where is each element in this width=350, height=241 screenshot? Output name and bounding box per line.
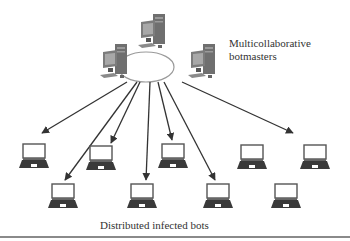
- bot-laptop-8: [203, 184, 233, 208]
- desktop-computer-icon: [188, 44, 215, 78]
- botmasters-label-line2: botmasters: [229, 50, 311, 63]
- laptop-icon: [19, 144, 49, 168]
- arrow-to-bot-5: [182, 82, 293, 133]
- laptop-icon: [237, 145, 267, 169]
- botmaster-desktop-left: [100, 44, 127, 78]
- bot-laptop-9: [271, 184, 301, 208]
- bot-laptop-2: [86, 146, 116, 170]
- botmaster-desktop-top: [138, 14, 165, 48]
- infected-bots-label: Distributed infected bots: [100, 219, 209, 232]
- desktop-computer-icon: [138, 14, 165, 48]
- bot-laptop-7: [127, 184, 157, 208]
- laptop-icon: [86, 146, 116, 170]
- laptop-icon: [271, 184, 301, 208]
- bot-laptop-1: [19, 144, 49, 168]
- arrow-to-bot-7: [146, 82, 150, 180]
- desktop-computer-icon: [100, 44, 127, 78]
- laptop-icon: [127, 184, 157, 208]
- botmasters-label: Multicollaborative botmasters: [229, 37, 311, 63]
- laptop-icon: [300, 145, 330, 169]
- bot-laptop-6: [48, 184, 78, 208]
- bottom-divider: [0, 236, 350, 238]
- bot-laptop-3: [158, 144, 188, 168]
- botmasters-label-line1: Multicollaborative: [229, 37, 311, 50]
- arrow-to-bot-1: [42, 82, 127, 133]
- botmaster-desktop-right: [188, 44, 215, 78]
- arrow-to-bot-3: [158, 82, 172, 140]
- bot-laptop-5: [300, 145, 330, 169]
- laptop-icon: [158, 144, 188, 168]
- laptop-icon: [203, 184, 233, 208]
- bot-laptop-4: [237, 145, 267, 169]
- laptop-icon: [48, 184, 78, 208]
